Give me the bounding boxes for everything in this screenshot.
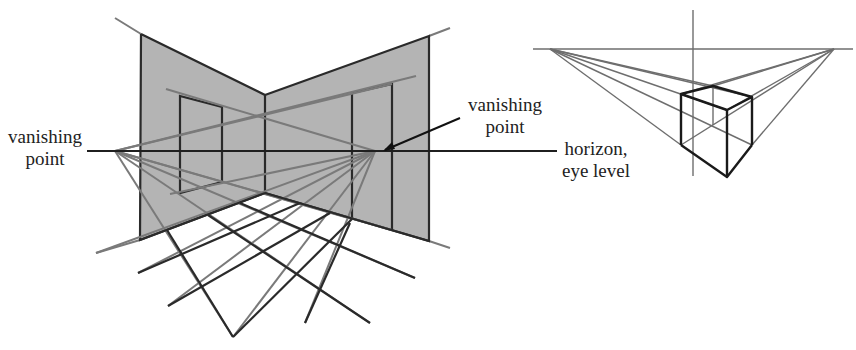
room-perspective-figure xyxy=(87,18,557,337)
right-wall xyxy=(265,36,429,241)
left-vp-label-line2: point xyxy=(4,148,86,170)
horizon-label-line2: eye level xyxy=(561,160,631,182)
right-vp-label-line1: vanishing xyxy=(460,94,550,116)
cube-bottom-edges xyxy=(681,145,752,177)
horizon-label-line1: horizon, xyxy=(561,138,631,160)
left-vp-label-line1: vanishing xyxy=(4,126,86,148)
perspective-diagram xyxy=(0,0,856,350)
right-vp-label: vanishing point xyxy=(460,94,550,138)
right-vp-label-line2: point xyxy=(460,116,550,138)
horizon-label: horizon, eye level xyxy=(561,138,631,182)
left-vp-label: vanishing point xyxy=(4,126,86,170)
